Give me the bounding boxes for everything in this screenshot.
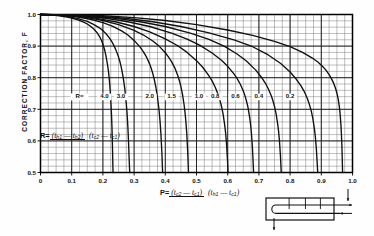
shell-body (266, 198, 334, 220)
p-formula: P= (tc2 — tc1) (th1 — tc1) (160, 188, 241, 198)
y-tick-label: 1.0 (27, 11, 36, 18)
x-tick-label: 0.9 (317, 177, 326, 184)
curve-label-R-0.8: 0.8 (211, 92, 220, 99)
curve-label-R-4.0: 4.0 (100, 92, 109, 99)
u-tube (272, 205, 340, 213)
p-formula-numerator: (tc2 — tc1) (169, 189, 204, 197)
y-tick-label: 0.5 (27, 169, 36, 176)
r-formula-lead: R= (40, 131, 50, 140)
x-tick-label: 0.4 (161, 177, 170, 184)
p-formula-denominator: (th1 — tc1) (206, 188, 241, 196)
curve-label-R-1.5: 1.5 (167, 92, 176, 99)
curve-label-R-0.2: 0.2 (286, 92, 295, 99)
r-formula: R= (th1 — th2) (tc2 — tc1) (40, 131, 122, 141)
tube-inlet-arrow-head (340, 212, 343, 215)
x-tick-label: 1.0 (348, 177, 357, 184)
heat-exchanger-diagram (266, 189, 352, 230)
x-tick-label: 0.1 (67, 177, 76, 184)
curve-label-R-3.0: 3.0 (117, 92, 126, 99)
shell-outlet-arrow-head (273, 227, 276, 230)
y-tick-label: 0.6 (27, 137, 36, 144)
curve-label-R-0.4: 0.4 (255, 92, 264, 99)
x-tick-label: 0.6 (223, 177, 232, 184)
tube-outlet-arrow-head (349, 204, 352, 207)
r-formula-numerator: (th1 — th2) (50, 132, 85, 140)
r-formula-denominator: (tc2 — tc1) (87, 131, 122, 139)
curve-label-R-1.0: 1.0 (195, 92, 204, 99)
chart-root: CORRECTION FACTOR, F 4.03.02.01.51.00.80… (0, 0, 374, 236)
y-tick-label: 0.9 (27, 42, 36, 49)
x-tick-label: 0.5 (192, 177, 201, 184)
y-tick-label: 0.8 (27, 74, 36, 81)
curve-label-R-0.6: 0.6 (231, 92, 240, 99)
y-axis-title: CORRECTION FACTOR, F (21, 12, 28, 152)
x-tick-label: 0 (39, 177, 43, 184)
x-tick-label: 0.2 (99, 177, 108, 184)
curve-label-R-prefix: R= (75, 92, 83, 99)
x-tick-label: 0.3 (130, 177, 139, 184)
y-tick-label: 0.7 (27, 106, 36, 113)
x-tick-label: 0.8 (286, 177, 295, 184)
correction-factor-chart: 4.03.02.01.51.00.80.60.40.2R=00.10.20.30… (0, 0, 374, 236)
shell-inlet-arrow-head (347, 198, 350, 201)
curve-label-R-2.0: 2.0 (145, 92, 154, 99)
p-formula-lead: P= (160, 188, 169, 197)
x-tick-label: 0.7 (255, 177, 264, 184)
